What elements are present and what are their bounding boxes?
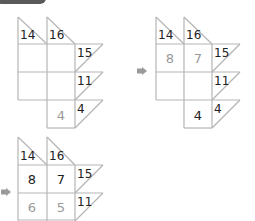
grid-cell[interactable] <box>18 44 46 72</box>
grid-cell[interactable] <box>184 72 212 100</box>
column-clue: 14 <box>158 29 173 41</box>
arrow-right-icon <box>1 188 11 196</box>
grid-cell[interactable] <box>47 72 75 100</box>
row-clue: 11 <box>77 196 92 208</box>
row-clue: 15 <box>77 47 92 59</box>
row-clue: 15 <box>214 47 229 59</box>
grid-cell[interactable] <box>47 44 75 72</box>
grid-cell[interactable]: 6 <box>18 193 46 221</box>
grid-cell[interactable] <box>18 72 46 100</box>
column-clue: 16 <box>186 29 201 41</box>
grid-cell[interactable]: 7 <box>47 165 75 193</box>
row-clue: 11 <box>77 75 92 87</box>
row-clue: 4 <box>77 103 85 115</box>
grid-cell[interactable]: 7 <box>184 44 212 72</box>
grid-cell[interactable]: 8 <box>18 165 46 193</box>
column-clue: 16 <box>49 150 64 162</box>
row-clue: 4 <box>214 103 222 115</box>
grid-cell[interactable]: 4 <box>184 101 212 129</box>
grid-cell[interactable]: 5 <box>47 193 75 221</box>
column-clue: 14 <box>20 29 35 41</box>
grid-cell[interactable] <box>156 72 184 100</box>
row-clue: 11 <box>214 75 229 87</box>
grid-cell[interactable]: 4 <box>47 101 75 129</box>
column-clue: 14 <box>20 150 35 162</box>
row-clue: 15 <box>77 168 92 180</box>
column-clue: 16 <box>49 29 64 41</box>
grid-cell[interactable]: 8 <box>156 44 184 72</box>
arrow-right-icon <box>137 67 147 75</box>
section-tab <box>0 0 46 4</box>
